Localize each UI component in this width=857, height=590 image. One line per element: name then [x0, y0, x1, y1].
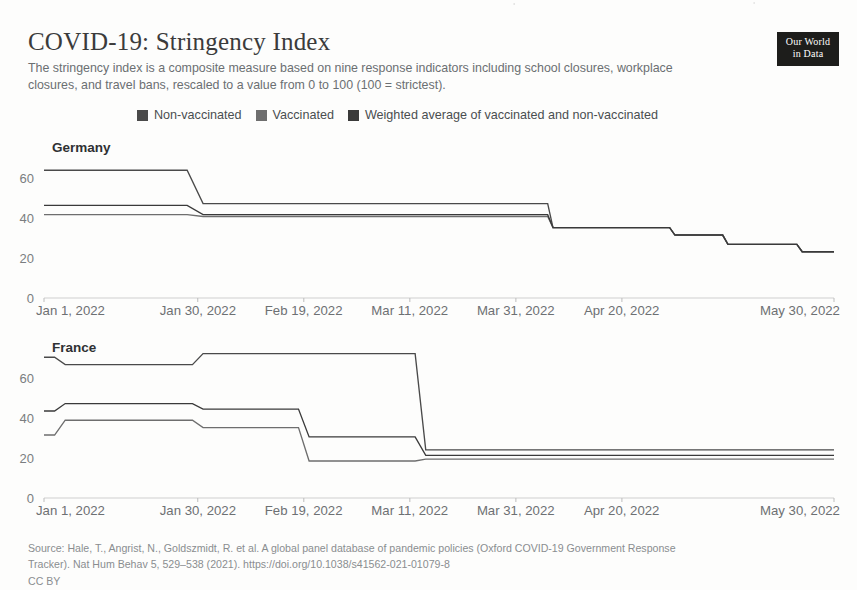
x-tick-label: Jan 1, 2022: [36, 303, 105, 318]
logo-line-1: Our World: [777, 36, 839, 48]
y-tick-label: 20: [20, 251, 34, 266]
x-axis-labels-germany: Jan 1, 2022Jan 30, 2022Feb 19, 2022Mar 1…: [0, 303, 857, 323]
y-tick-label: 60: [20, 171, 34, 186]
x-tick-label: Mar 11, 2022: [371, 303, 448, 318]
x-tick-label: Apr 20, 2022: [584, 503, 660, 518]
legend-label: Weighted average of vaccinated and non-v…: [365, 108, 658, 122]
legend-item[interactable]: Vaccinated: [256, 108, 334, 122]
series-line: [44, 170, 834, 251]
x-tick-label: Feb 19, 2022: [265, 503, 343, 518]
x-tick-label: Apr 20, 2022: [584, 303, 660, 318]
legend-label: Non-vaccinated: [154, 108, 242, 122]
source-line-1: Source: Hale, T., Angrist, N., Goldszmid…: [28, 541, 828, 557]
source-line-2: Tracker). Nat Hum Behav 5, 529–538 (2021…: [28, 557, 828, 573]
page-title: COVID-19: Stringency Index: [28, 28, 748, 56]
legend-item[interactable]: Weighted average of vaccinated and non-v…: [348, 108, 658, 122]
x-tick-label: Mar 31, 2022: [477, 503, 555, 518]
y-tick-label: 60: [20, 371, 34, 386]
series-line: [44, 215, 834, 252]
legend-label: Vaccinated: [273, 108, 334, 122]
y-tick-label: 40: [20, 211, 34, 226]
x-tick-label: May 30, 2022: [760, 503, 840, 518]
logo-line-2: in Data: [777, 48, 839, 60]
legend-swatch-icon: [348, 110, 359, 121]
chart-subtitle: The stringency index is a composite meas…: [28, 60, 700, 95]
plot-area-france: 0204060: [44, 358, 834, 498]
x-tick-label: Jan 1, 2022: [36, 503, 105, 518]
y-tick-label: 20: [20, 451, 34, 466]
panel-germany: Germany 0204060: [0, 140, 857, 330]
series-line: [44, 354, 834, 450]
y-tick-label: 40: [20, 411, 34, 426]
x-tick-label: Jan 30, 2022: [160, 303, 236, 318]
scan-artifact: [0, 0, 857, 12]
series-line: [44, 205, 834, 251]
x-tick-label: Mar 31, 2022: [477, 303, 555, 318]
x-axis-labels-france: Jan 1, 2022Jan 30, 2022Feb 19, 2022Mar 1…: [0, 503, 857, 523]
plot-area-germany: 0204060: [44, 158, 834, 298]
x-tick-label: Jan 30, 2022: [160, 503, 236, 518]
license-label: CC BY: [28, 574, 828, 590]
panel-title-france: France: [52, 340, 96, 355]
panel-france: France 0204060: [0, 340, 857, 530]
chart-legend: Non-vaccinatedVaccinatedWeighted average…: [137, 108, 658, 122]
x-tick-label: Feb 19, 2022: [265, 303, 343, 318]
our-world-in-data-logo[interactable]: Our World in Data: [777, 32, 839, 66]
legend-swatch-icon: [256, 110, 267, 121]
panel-title-germany: Germany: [52, 140, 111, 155]
legend-swatch-icon: [137, 110, 148, 121]
chart-header: COVID-19: Stringency Index The stringenc…: [28, 28, 748, 95]
series-line: [44, 404, 834, 456]
chart-footer: Source: Hale, T., Angrist, N., Goldszmid…: [28, 541, 828, 590]
legend-item[interactable]: Non-vaccinated: [137, 108, 242, 122]
x-tick-label: May 30, 2022: [760, 303, 840, 318]
x-tick-label: Mar 11, 2022: [371, 503, 448, 518]
chart-page: COVID-19: Stringency Index The stringenc…: [0, 0, 857, 590]
